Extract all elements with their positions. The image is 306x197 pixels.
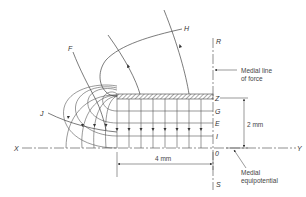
label-h: H xyxy=(184,25,190,32)
dimension-4mm: 4 mm xyxy=(117,152,213,177)
field-line-top-2 xyxy=(164,10,189,94)
label-z: Z xyxy=(214,95,220,102)
lines-of-force-vertical xyxy=(116,99,203,148)
label-x: X xyxy=(13,145,19,152)
medial-equipotential-annotation: Medial equipotential xyxy=(234,150,278,185)
label-r: R xyxy=(216,38,221,45)
dimension-2mm-label: 2 mm xyxy=(247,121,263,128)
line-h xyxy=(100,29,182,96)
electric-field-diagram: 2 mm 4 mm Medial line of force Medial eq… xyxy=(0,0,306,197)
dimension-2mm: 2 mm xyxy=(244,99,263,147)
dimension-4mm-label: 4 mm xyxy=(155,155,171,162)
label-s: S xyxy=(216,181,221,188)
label-o: 0 xyxy=(215,150,219,157)
label-e: E xyxy=(215,120,220,127)
label-i: I xyxy=(216,133,218,140)
svg-text:equipotential: equipotential xyxy=(241,177,278,185)
svg-text:of force: of force xyxy=(241,75,263,82)
medial-line-of-force-annotation: Medial line of force xyxy=(215,67,272,82)
label-f: F xyxy=(68,45,73,52)
label-y: Y xyxy=(297,145,303,152)
electrode-plate xyxy=(117,94,213,99)
fringe-lines-of-force xyxy=(66,95,117,148)
label-g: G xyxy=(215,108,221,115)
svg-text:Medial line: Medial line xyxy=(241,67,272,74)
svg-text:Medial: Medial xyxy=(241,169,261,176)
label-j: J xyxy=(39,110,44,117)
